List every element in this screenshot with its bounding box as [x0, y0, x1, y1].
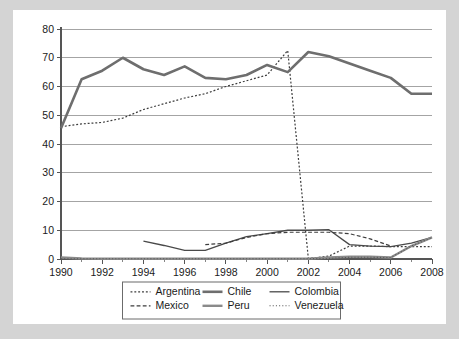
legend-label-venezuela: Venezuela: [295, 299, 344, 311]
legend-label-peru: Peru: [228, 299, 250, 311]
y-tick-label: 40: [42, 138, 54, 150]
y-tick-label: 50: [42, 109, 54, 121]
y-tick-label: 80: [42, 23, 54, 35]
line-chart: 01020304050607080 1990199219941996199820…: [13, 10, 446, 324]
y-tick-label: 70: [42, 51, 54, 63]
y-tick-label: 20: [42, 195, 54, 207]
y-tick-label: 0: [48, 253, 54, 265]
x-tick-label: 2008: [420, 266, 444, 278]
y-tick-label: 60: [42, 80, 54, 92]
chart-legend: ArgentinaChileColombiaMexicoPeruVenezuel…: [123, 282, 344, 319]
y-tick-label: 10: [42, 224, 54, 236]
x-tick-label: 1998: [214, 266, 238, 278]
legend-label-chile: Chile: [228, 285, 252, 297]
legend-label-colombia: Colombia: [295, 285, 340, 297]
y-tick-label: 30: [42, 166, 54, 178]
x-tick-label: 1990: [49, 266, 73, 278]
x-tick-label: 1992: [91, 266, 115, 278]
x-tick-label: 2004: [338, 266, 362, 278]
legend-label-mexico: Mexico: [156, 299, 189, 311]
x-tick-label: 2006: [379, 266, 403, 278]
x-tick-label: 2002: [297, 266, 321, 278]
x-tick-label: 1996: [173, 266, 197, 278]
x-tick-label: 1994: [132, 266, 156, 278]
x-tick-label: 2000: [255, 266, 279, 278]
chart-figure: 01020304050607080 1990199219941996199820…: [13, 10, 446, 324]
y-axis-tick-labels: 01020304050607080: [42, 23, 54, 265]
legend-label-argentina: Argentina: [156, 285, 201, 297]
